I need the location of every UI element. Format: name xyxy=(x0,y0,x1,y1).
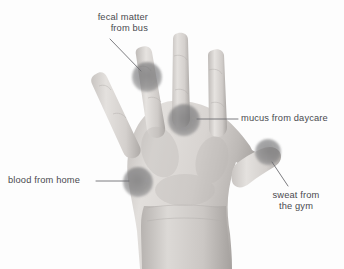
spot-mucus xyxy=(168,104,200,136)
spot-sweat xyxy=(255,139,281,165)
spot-blood xyxy=(123,167,153,197)
hand-illustration xyxy=(0,0,344,269)
hygiene-hand-figure: fecal matter from bus mucus from daycare… xyxy=(0,0,344,269)
annotation-label-blood: blood from home xyxy=(8,175,92,186)
annotation-label-sweat: sweat from the gym xyxy=(256,190,336,213)
annotation-label-fecal-matter: fecal matter from bus xyxy=(58,12,148,35)
index-finger xyxy=(208,49,227,137)
annotation-label-mucus: mucus from daycare xyxy=(241,113,343,124)
wrist-shape xyxy=(141,206,230,269)
